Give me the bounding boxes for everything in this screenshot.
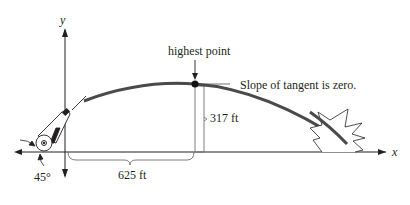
distance-brace bbox=[68, 152, 194, 165]
height-label: 317 ft bbox=[210, 112, 238, 124]
projectile-diagram bbox=[0, 0, 410, 205]
x-axis-label: x bbox=[392, 146, 397, 158]
y-axis-arrow-icon bbox=[62, 28, 68, 37]
x-axis-left-arrow-icon bbox=[14, 149, 22, 155]
height-bracket bbox=[197, 86, 204, 152]
y-axis-label: y bbox=[60, 14, 65, 26]
slope-note: Slope of tangent is zero. bbox=[240, 79, 356, 91]
distance-label: 625 ft bbox=[118, 169, 146, 181]
explosion-icon bbox=[310, 109, 365, 152]
pointer-arrow-icon bbox=[192, 73, 198, 80]
angle-label: 45° bbox=[34, 171, 51, 183]
cannon-icon bbox=[36, 96, 86, 151]
y-axis-down-arrow-icon bbox=[62, 169, 68, 178]
y-axis bbox=[62, 28, 68, 178]
highest-point-marker bbox=[192, 81, 199, 88]
x-axis-arrow-icon bbox=[378, 149, 386, 155]
highest-point-label: highest point bbox=[168, 45, 230, 57]
